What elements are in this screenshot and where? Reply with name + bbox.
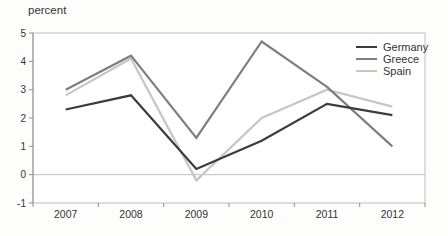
y-axis-unit-label: percent: [28, 4, 66, 16]
inflation-line-chart-figure: 543210-1200720082009201020112012 percent…: [0, 0, 448, 236]
legend-item-greece: Greece: [356, 53, 428, 65]
germany-line-swatch-icon: [356, 46, 377, 48]
y-tick-label: -1: [17, 198, 26, 209]
legend-item-germany: Germany: [356, 41, 428, 53]
x-tick-label: 2012: [381, 208, 405, 220]
y-tick-label: 4: [20, 56, 26, 67]
legend-item-spain: Spain: [356, 65, 428, 77]
y-tick-label: 0: [20, 169, 26, 180]
legend-label-spain: Spain: [383, 65, 411, 77]
line-chart-plot-area: 543210-1200720082009201020112012: [0, 0, 448, 236]
y-tick-label: 2: [20, 113, 26, 124]
legend-label-germany: Germany: [383, 41, 428, 53]
greece-line-swatch-icon: [356, 58, 377, 60]
x-tick-label: 2011: [316, 208, 339, 220]
x-tick-label: 2008: [119, 208, 143, 220]
y-tick-label: 5: [20, 28, 26, 39]
chart-legend: Germany Greece Spain: [356, 41, 428, 77]
x-tick-label: 2009: [185, 208, 209, 220]
y-tick-label: 1: [20, 141, 26, 152]
x-tick-label: 2007: [54, 208, 78, 220]
legend-label-greece: Greece: [383, 53, 419, 65]
y-tick-label: 3: [20, 84, 26, 95]
spain-line-swatch-icon: [356, 70, 377, 72]
x-tick-label: 2010: [250, 208, 274, 220]
